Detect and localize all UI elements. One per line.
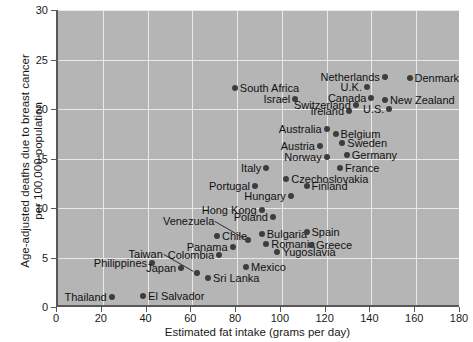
gridline-horizontal <box>58 109 459 110</box>
data-point <box>283 176 289 182</box>
data-point-label: France <box>345 163 379 174</box>
data-point <box>304 183 310 189</box>
data-point <box>308 242 314 248</box>
data-point-label: Norway <box>284 151 321 162</box>
data-point-label: Finland <box>312 181 348 192</box>
y-axis-tick <box>51 258 56 259</box>
data-point <box>214 233 220 239</box>
data-point-label: El Salvador <box>148 291 204 302</box>
data-point-label: Germany <box>352 149 397 160</box>
gridline-vertical <box>192 10 193 305</box>
y-axis-title-line1: Age-adjusted deaths due to breast cancer <box>19 54 31 268</box>
x-axis-tick-label: 120 <box>305 312 345 324</box>
gridline-vertical <box>416 10 417 305</box>
y-axis-tick <box>51 208 56 209</box>
data-point-label: Portugal <box>209 181 250 192</box>
x-axis-tick-label: 60 <box>170 312 210 324</box>
y-axis-title-line2: per 100,000 population <box>32 102 44 220</box>
data-point <box>230 244 236 250</box>
gridline-horizontal <box>58 60 459 61</box>
y-axis-tick <box>51 159 56 160</box>
data-point <box>339 140 345 146</box>
data-point-label: Greece <box>316 239 352 250</box>
gridline-vertical <box>237 10 238 305</box>
x-axis-tick-label: 40 <box>126 312 166 324</box>
data-point <box>263 241 269 247</box>
data-point-label: Hungary <box>244 191 286 202</box>
data-point-label: Belgium <box>341 128 381 139</box>
data-point-label: Italy <box>241 163 261 174</box>
data-point-label: Japan <box>146 263 176 274</box>
data-point <box>304 229 310 235</box>
y-axis-tick <box>51 10 56 11</box>
data-point-label: Spain <box>312 226 340 237</box>
data-point-label: Austria <box>281 140 315 151</box>
data-point <box>263 165 269 171</box>
data-point <box>252 183 258 189</box>
data-point <box>194 270 200 276</box>
data-point-label: U.K. <box>341 82 362 93</box>
data-point-label: Mexico <box>251 262 286 273</box>
x-axis-title: Estimated fat intake (grams per day) <box>56 326 459 338</box>
gridline-horizontal <box>58 159 459 160</box>
data-point-label: Sri Lanka <box>213 273 259 284</box>
data-point <box>317 143 323 149</box>
data-point <box>368 95 374 101</box>
data-point <box>288 193 294 199</box>
data-point <box>205 275 211 281</box>
x-axis-tick-label: 0 <box>36 312 76 324</box>
data-point <box>259 231 265 237</box>
plot-area: ThailandEl SalvadorPhilippinesJapanTaiwa… <box>56 10 459 307</box>
data-point <box>333 131 339 137</box>
x-axis-tick-label: 100 <box>260 312 300 324</box>
data-point-label: Israel <box>263 94 290 105</box>
data-point <box>140 293 146 299</box>
data-point-label: Denmark <box>415 73 460 84</box>
data-point-label: Poland <box>234 211 268 222</box>
data-point-label: Panama <box>187 241 228 252</box>
data-point-label: Thailand <box>65 292 107 303</box>
x-axis-tick-label: 160 <box>394 312 434 324</box>
data-point <box>109 294 115 300</box>
gridline-horizontal <box>58 10 459 11</box>
data-point <box>407 75 413 81</box>
data-point <box>243 264 249 270</box>
data-point-label: South Africa <box>240 83 299 94</box>
data-point-label: Canada <box>328 93 367 104</box>
data-point <box>382 97 388 103</box>
data-point <box>337 165 343 171</box>
y-axis-tick <box>51 307 56 308</box>
x-axis-tick-label: 140 <box>349 312 389 324</box>
y-axis-tick <box>51 60 56 61</box>
data-point <box>382 74 388 80</box>
data-point-label: Netherlands <box>321 72 380 83</box>
x-axis-tick-label: 80 <box>215 312 255 324</box>
data-point-label: New Zealand <box>390 95 455 106</box>
data-point <box>216 252 222 258</box>
data-point <box>245 237 251 243</box>
data-point-label: U.S. <box>363 104 384 115</box>
data-point-label: Taiwan <box>129 249 163 260</box>
x-axis-tick-label: 20 <box>81 312 121 324</box>
data-point <box>274 249 280 255</box>
data-point <box>386 106 392 112</box>
data-point <box>324 126 330 132</box>
data-point-label: Bulgaria <box>267 228 307 239</box>
data-point <box>324 154 330 160</box>
data-point-label: Venezuela <box>163 215 214 226</box>
y-axis-title: Age-adjusted deaths due to breast cancer… <box>19 11 45 311</box>
y-axis-tick <box>51 109 56 110</box>
x-axis-tick-label: 180 <box>439 312 473 324</box>
data-point <box>344 152 350 158</box>
data-point <box>364 84 370 90</box>
data-point-label: Australia <box>279 123 322 134</box>
data-point <box>270 214 276 220</box>
